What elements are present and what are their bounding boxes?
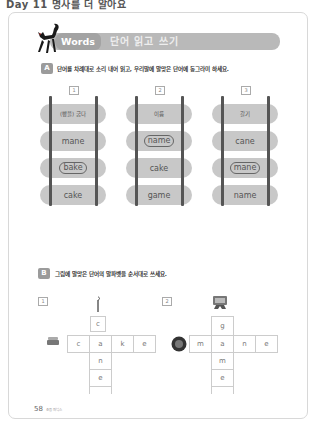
puzzle-1-shared-cell[interactable]: a bbox=[89, 335, 112, 353]
game-console-icon bbox=[212, 295, 228, 310]
page-number: 58 bbox=[34, 405, 43, 413]
puzzle-1-down-cell[interactable]: c bbox=[90, 316, 106, 332]
puzzle-2-down-cell[interactable]: m bbox=[211, 352, 234, 370]
puzzle-1-down-cell[interactable]: e bbox=[89, 369, 112, 387]
puzzle-1-across-cell[interactable]: e bbox=[133, 335, 156, 353]
candle-icon bbox=[94, 296, 102, 312]
ladder-rail bbox=[221, 96, 224, 206]
footer: 58초등 파닉스 bbox=[34, 405, 62, 413]
puzzle-2-shared-cell[interactable]: a bbox=[211, 335, 234, 353]
puzzle-1-across-cell[interactable]: k bbox=[111, 335, 134, 353]
ladder-rail bbox=[135, 96, 138, 206]
cake-icon bbox=[46, 336, 60, 346]
puzzle-1-down-cell[interactable]: n bbox=[89, 352, 112, 370]
worksheet-card bbox=[8, 12, 308, 419]
puzzle-2-down-cell[interactable] bbox=[211, 386, 234, 394]
section-b-badge: B bbox=[38, 268, 50, 279]
ladder-3: 갈기 cane mane name bbox=[212, 96, 278, 206]
puzzle-1-across-cell[interactable]: c bbox=[67, 335, 90, 353]
puzzle-1-number: 1 bbox=[38, 297, 48, 306]
puzzle-2-down-cell[interactable]: g bbox=[211, 316, 234, 336]
cat-icon bbox=[32, 22, 62, 56]
section-b-instruction: 그림에 알맞은 단어의 알파벳을 순서대로 쓰세요. bbox=[55, 270, 167, 278]
ladder-1: (빵을) 굽다 mane bake cake bbox=[40, 96, 106, 206]
puzzle-2-across-cell[interactable]: e bbox=[255, 335, 278, 353]
puzzle-2-number: 2 bbox=[162, 297, 172, 306]
lion-icon bbox=[171, 336, 187, 352]
section-a-instruction: 단어를 차례대로 소리 내어 읽고, 우리말에 알맞은 단어에 동그라미 하세요… bbox=[57, 65, 229, 73]
ladder-rail bbox=[267, 96, 270, 206]
page-header: Day 11 명사를 더 알아요 bbox=[6, 0, 126, 11]
ladder-rail bbox=[49, 96, 52, 206]
puzzle-1-down-cell[interactable] bbox=[89, 386, 112, 394]
ladder-rail bbox=[95, 96, 98, 206]
ladder-2: 이름 name cake game bbox=[126, 96, 192, 206]
puzzle-2-down-cell[interactable]: e bbox=[211, 369, 234, 387]
title-korean: 단어 읽고 쓰기 bbox=[110, 33, 179, 50]
ladder-3-number: 3 bbox=[241, 86, 251, 95]
book-title: 초등 파닉스 bbox=[46, 408, 62, 412]
puzzle-2-across-cell[interactable]: m bbox=[189, 335, 212, 353]
ladder-2-number: 2 bbox=[155, 86, 165, 95]
ladder-rail bbox=[181, 96, 184, 206]
ladder-1-number: 1 bbox=[69, 86, 79, 95]
section-a-badge: A bbox=[41, 63, 53, 74]
puzzle-2-across-cell[interactable]: n bbox=[233, 335, 256, 353]
